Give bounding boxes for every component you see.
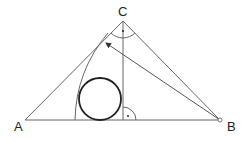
side-bc — [123, 21, 220, 120]
right-angle-dot-h — [127, 115, 129, 117]
right-angle-mark-h — [123, 107, 136, 120]
point-b-marker — [218, 118, 222, 122]
right-angle-dot-c — [122, 30, 124, 32]
geometry-diagram: A B C — [0, 0, 247, 142]
label-b: B — [227, 119, 236, 134]
inscribed-circle — [79, 78, 121, 120]
label-a: A — [14, 119, 23, 134]
side-ac — [25, 21, 123, 120]
label-c: C — [118, 4, 127, 19]
